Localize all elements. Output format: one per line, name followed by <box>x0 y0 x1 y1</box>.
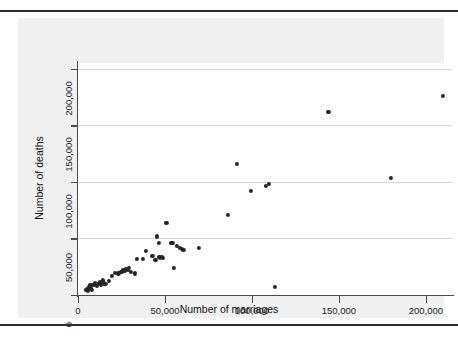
data-point <box>226 213 230 217</box>
data-point <box>273 285 277 289</box>
top-divider-rule <box>0 10 458 12</box>
scatter-points <box>18 18 444 318</box>
data-point <box>172 266 176 270</box>
data-point <box>153 258 157 262</box>
data-point <box>197 246 201 250</box>
data-point <box>156 241 160 245</box>
data-point <box>161 256 165 260</box>
data-point <box>267 182 271 186</box>
data-point <box>235 162 239 166</box>
data-point <box>164 221 168 225</box>
data-point <box>181 248 185 252</box>
data-point <box>249 189 253 193</box>
data-point <box>133 271 137 275</box>
data-point <box>141 257 145 261</box>
figure-page: 050,000100,000150,000200,000 050,000100,… <box>0 0 458 337</box>
data-point <box>90 288 94 292</box>
figure-panel: 050,000100,000150,000200,000 050,000100,… <box>18 18 444 318</box>
x-axis-title: Number of marriages <box>0 303 458 315</box>
data-point <box>144 249 148 253</box>
y-axis-title: Number of deaths <box>33 123 45 233</box>
data-point <box>107 279 111 283</box>
data-point <box>135 257 139 261</box>
data-point <box>155 234 159 238</box>
data-point <box>128 269 132 273</box>
data-point <box>389 176 393 180</box>
data-point <box>326 109 330 113</box>
data-point <box>170 241 174 245</box>
